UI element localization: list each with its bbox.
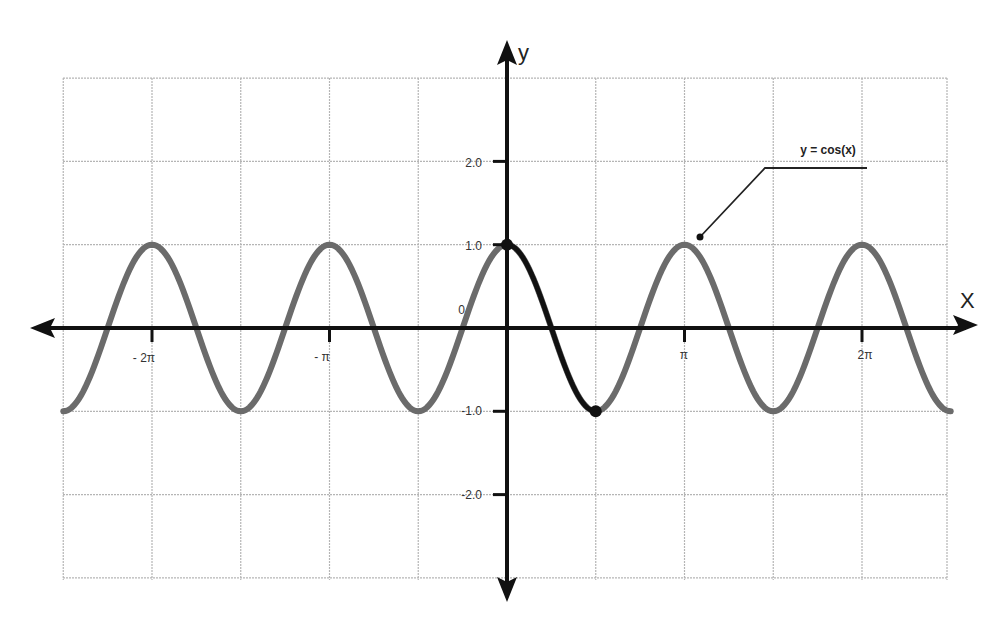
y-tick-label-2: 2.0	[465, 156, 482, 170]
cosine-chart: y X - 2π - π π 2π 2.0 1.0 0 -1.0 -2.0 y …	[0, 0, 1004, 621]
y-axis-label: y	[518, 40, 529, 65]
annotation-dot-icon	[697, 234, 704, 241]
y-axis	[497, 40, 517, 602]
x-tick-label-neg-pi: - π	[314, 350, 330, 364]
x-tick-label-pi: π	[680, 348, 688, 362]
highlight-point-dot-icon	[590, 405, 602, 417]
x-tick-label-2pi: 2π	[858, 348, 873, 362]
x-axis-right-arrow-icon	[953, 315, 978, 335]
x-tick-label-neg-2pi: - 2π	[133, 351, 155, 365]
x-axis	[30, 315, 978, 338]
annotation-label: y = cos(x)	[800, 143, 856, 157]
y-tick-label-neg-2: -2.0	[461, 488, 482, 502]
curve-annotation: y = cos(x)	[697, 143, 868, 241]
y-tick-label-neg-1: -1.0	[461, 404, 482, 418]
y-tick-label-0: 0	[458, 303, 465, 317]
x-axis-label: X	[960, 288, 975, 313]
y-tick-label-1: 1.0	[465, 239, 482, 253]
